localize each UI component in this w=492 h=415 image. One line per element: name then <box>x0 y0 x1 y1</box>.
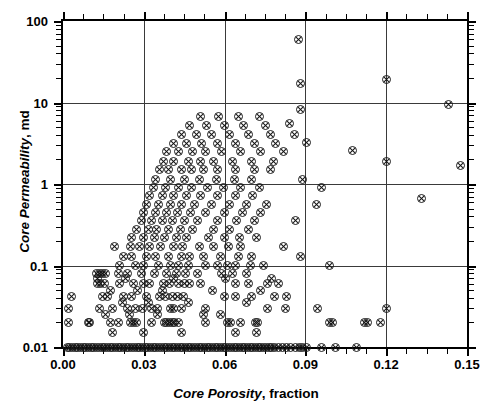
data-point <box>242 269 251 278</box>
y-tick-major-right <box>467 21 476 23</box>
data-point <box>108 304 117 313</box>
data-point <box>155 165 164 174</box>
data-point <box>181 269 190 278</box>
data-point <box>199 165 208 174</box>
data-point <box>262 200 271 209</box>
y-tick-minor <box>56 39 63 40</box>
data-point <box>188 225 197 234</box>
y-axis-title-plain: , md <box>17 110 32 138</box>
data-point <box>139 208 148 217</box>
data-point <box>250 165 259 174</box>
data-point <box>192 130 201 139</box>
data-point <box>93 274 102 283</box>
data-point <box>231 292 240 301</box>
data-point <box>67 292 76 301</box>
y-tick-minor <box>56 29 63 30</box>
data-point <box>196 157 205 166</box>
data-point <box>185 121 194 130</box>
data-point <box>325 261 334 270</box>
x-tick-minor-top <box>245 14 246 21</box>
data-point <box>187 165 196 174</box>
y-tick-minor-right <box>467 46 474 47</box>
data-point <box>328 318 337 327</box>
data-point <box>208 286 217 295</box>
data-point <box>174 261 183 270</box>
data-point <box>202 121 211 130</box>
data-point <box>294 35 303 44</box>
data-point <box>188 147 197 156</box>
y-tick-minor-right <box>467 202 474 203</box>
data-point <box>184 298 193 307</box>
data-point <box>247 157 256 166</box>
y-tick-minor <box>56 269 63 270</box>
x-tick-label: 0.15 <box>454 357 479 372</box>
data-point <box>267 274 276 283</box>
data-point <box>185 252 194 261</box>
data-point <box>242 298 251 307</box>
x-tick-major-top <box>225 12 227 21</box>
data-point <box>132 318 141 327</box>
data-point <box>225 225 234 234</box>
y-tick-minor-right <box>467 188 474 189</box>
data-point <box>317 343 326 352</box>
data-point <box>250 216 259 225</box>
data-point <box>199 310 208 319</box>
y-tick-minor-right <box>467 197 474 198</box>
data-point <box>234 252 243 261</box>
data-point <box>177 165 186 174</box>
data-point <box>195 175 204 184</box>
data-point <box>248 191 257 200</box>
data-point <box>164 252 173 261</box>
data-point <box>151 252 160 261</box>
data-point <box>196 191 205 200</box>
data-point <box>166 200 175 209</box>
y-tick-minor <box>56 298 63 299</box>
data-point <box>151 175 160 184</box>
gridline-vertical <box>386 21 387 347</box>
y-tick-minor-right <box>467 110 474 111</box>
x-tick-minor-top <box>427 14 428 21</box>
y-tick-minor-right <box>467 273 474 274</box>
data-point <box>225 130 234 139</box>
data-point <box>184 157 193 166</box>
data-point <box>244 225 253 234</box>
data-point <box>234 112 243 121</box>
data-point <box>363 318 372 327</box>
x-tick-major-top <box>305 12 307 21</box>
data-point <box>204 233 213 242</box>
data-point <box>296 252 305 261</box>
y-tick-minor-right <box>467 322 474 323</box>
data-point <box>169 157 178 166</box>
data-point <box>213 216 222 225</box>
data-point <box>225 200 234 209</box>
x-tick-label: 0.06 <box>212 357 237 372</box>
data-point <box>160 233 169 242</box>
data-point <box>444 100 453 109</box>
data-point <box>252 233 261 242</box>
data-point <box>236 242 245 251</box>
data-point <box>216 252 225 261</box>
data-point <box>224 242 233 251</box>
data-point <box>201 261 210 270</box>
x-tick-major-top <box>386 12 388 21</box>
y-tick-minor-right <box>467 34 474 35</box>
y-tick-minor <box>56 127 63 128</box>
data-point <box>291 216 300 225</box>
y-tick-minor <box>56 273 63 274</box>
y-tick-label: 10 <box>0 95 48 110</box>
data-point <box>302 138 311 147</box>
y-tick-minor-right <box>467 159 474 160</box>
data-point <box>145 242 154 251</box>
y-tick-minor-right <box>467 308 474 309</box>
y-tick-minor-right <box>467 227 474 228</box>
data-point <box>196 112 205 121</box>
data-point <box>256 208 265 217</box>
data-point <box>230 175 239 184</box>
y-tick-minor <box>56 34 63 35</box>
gridline-horizontal <box>63 184 467 185</box>
data-point <box>173 208 182 217</box>
y-tick-minor <box>56 135 63 136</box>
y-tick-minor <box>56 159 63 160</box>
y-tick-minor-right <box>467 135 474 136</box>
y-tick-minor <box>56 241 63 242</box>
